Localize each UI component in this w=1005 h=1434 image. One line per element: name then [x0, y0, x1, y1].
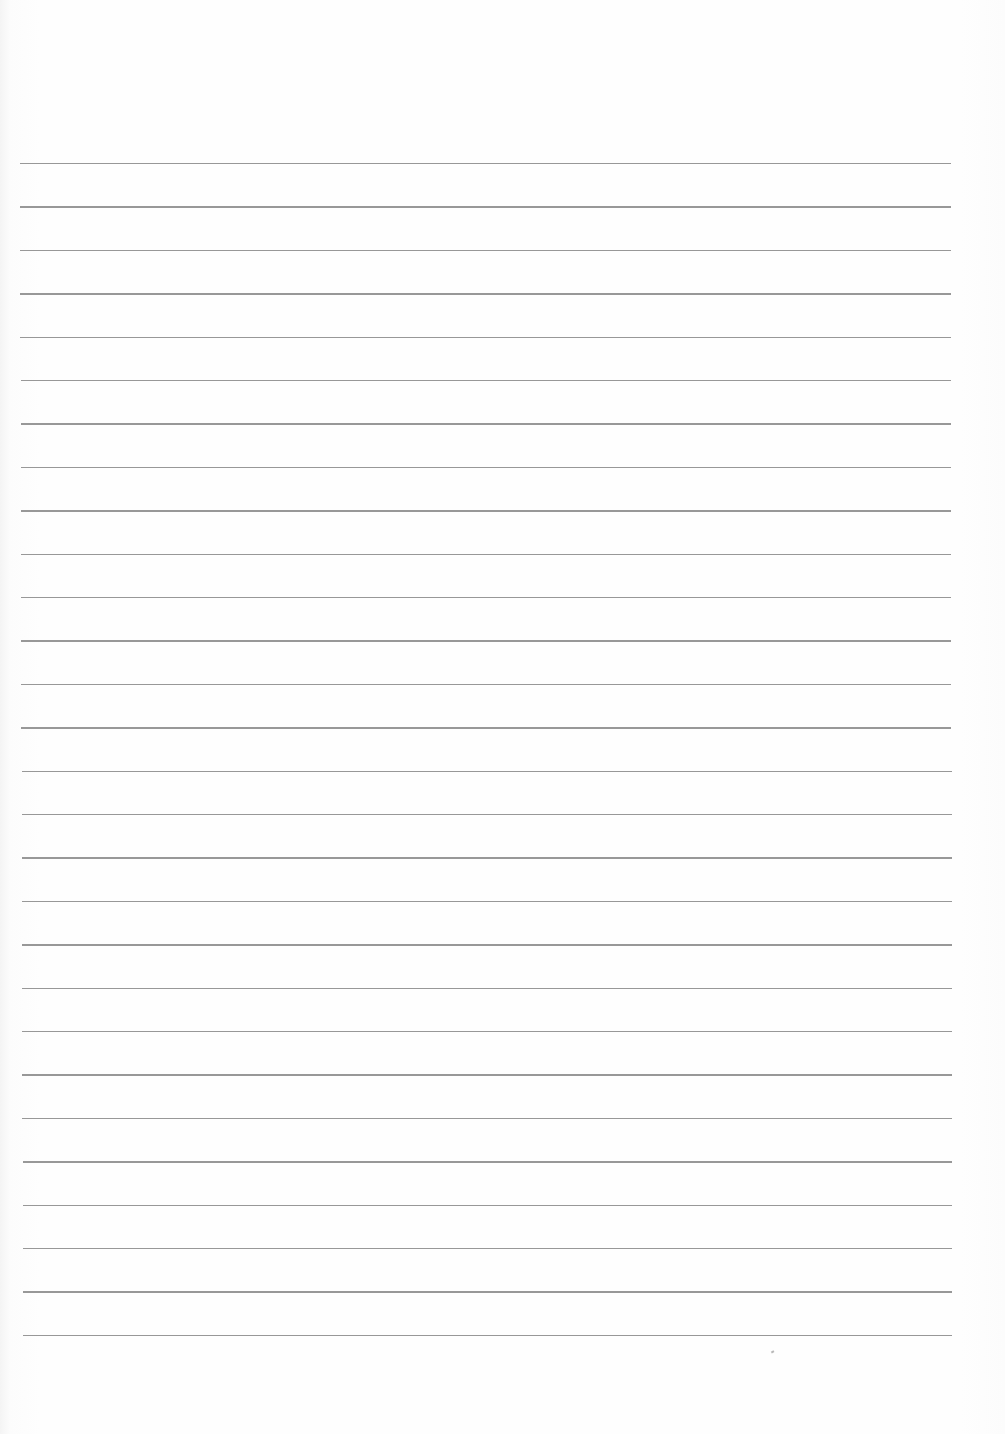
ruled-line	[23, 1335, 952, 1336]
ruled-line	[23, 1161, 952, 1162]
ruled-line	[22, 901, 952, 902]
ruled-line	[20, 293, 951, 294]
ruled-line	[21, 467, 951, 468]
ruled-line	[20, 163, 951, 164]
lined-paper-page	[0, 0, 1005, 1434]
ruled-line	[21, 640, 951, 641]
ruled-line	[21, 554, 951, 555]
ruled-line	[22, 857, 952, 858]
ruled-line	[21, 684, 951, 685]
ruled-line	[20, 206, 951, 207]
ruled-line	[20, 250, 951, 251]
ruled-line	[22, 814, 952, 815]
ruled-line	[23, 1291, 952, 1292]
ruled-line	[22, 944, 952, 945]
ruled-line	[20, 337, 951, 338]
ruled-line	[22, 771, 952, 772]
ruled-line	[21, 423, 951, 424]
ruled-line	[23, 1205, 952, 1206]
ruled-line	[21, 727, 951, 728]
ruled-line	[21, 510, 951, 511]
ruled-line	[22, 988, 952, 989]
ruled-line	[23, 1248, 952, 1249]
ruled-line	[21, 380, 951, 381]
ruled-line	[22, 1031, 952, 1032]
ruled-line	[22, 1118, 952, 1119]
paper-speck	[771, 1350, 774, 1353]
ruled-line	[22, 1074, 952, 1075]
ruled-line	[21, 597, 951, 598]
